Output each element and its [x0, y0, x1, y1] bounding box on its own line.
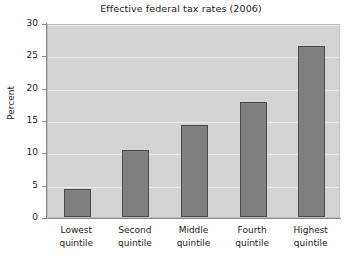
y-tick-label: 10 [0, 148, 38, 157]
y-tick-mark [42, 89, 46, 90]
y-tick-label: 0 [0, 213, 38, 222]
x-tick-label-line: Highest [273, 224, 349, 237]
y-tick-label: 20 [0, 84, 38, 93]
x-axis-line [46, 218, 341, 219]
y-tick-mark [42, 24, 46, 25]
bar [298, 46, 325, 217]
chart-figure: Effective federal tax rates (2006) Perce… [0, 0, 362, 265]
plot-area [47, 24, 340, 218]
gridline [48, 25, 339, 26]
y-tick-label: 15 [0, 116, 38, 125]
y-tick-mark [42, 186, 46, 187]
gridline [48, 57, 339, 58]
y-tick-label: 25 [0, 51, 38, 60]
y-tick-mark [42, 153, 46, 154]
x-tick-label: Highestquintile [273, 224, 349, 249]
y-tick-mark [42, 121, 46, 122]
y-tick-mark [42, 56, 46, 57]
bar [122, 150, 149, 217]
y-tick-label: 30 [0, 19, 38, 28]
y-tick-label: 5 [0, 181, 38, 190]
y-tick-mark [42, 218, 46, 219]
gridline [48, 122, 339, 123]
x-tick-label-line: quintile [273, 237, 349, 250]
gridline [48, 90, 339, 91]
chart-title: Effective federal tax rates (2006) [0, 3, 362, 14]
bar [240, 102, 267, 217]
bar [64, 189, 91, 217]
bar [181, 125, 208, 217]
